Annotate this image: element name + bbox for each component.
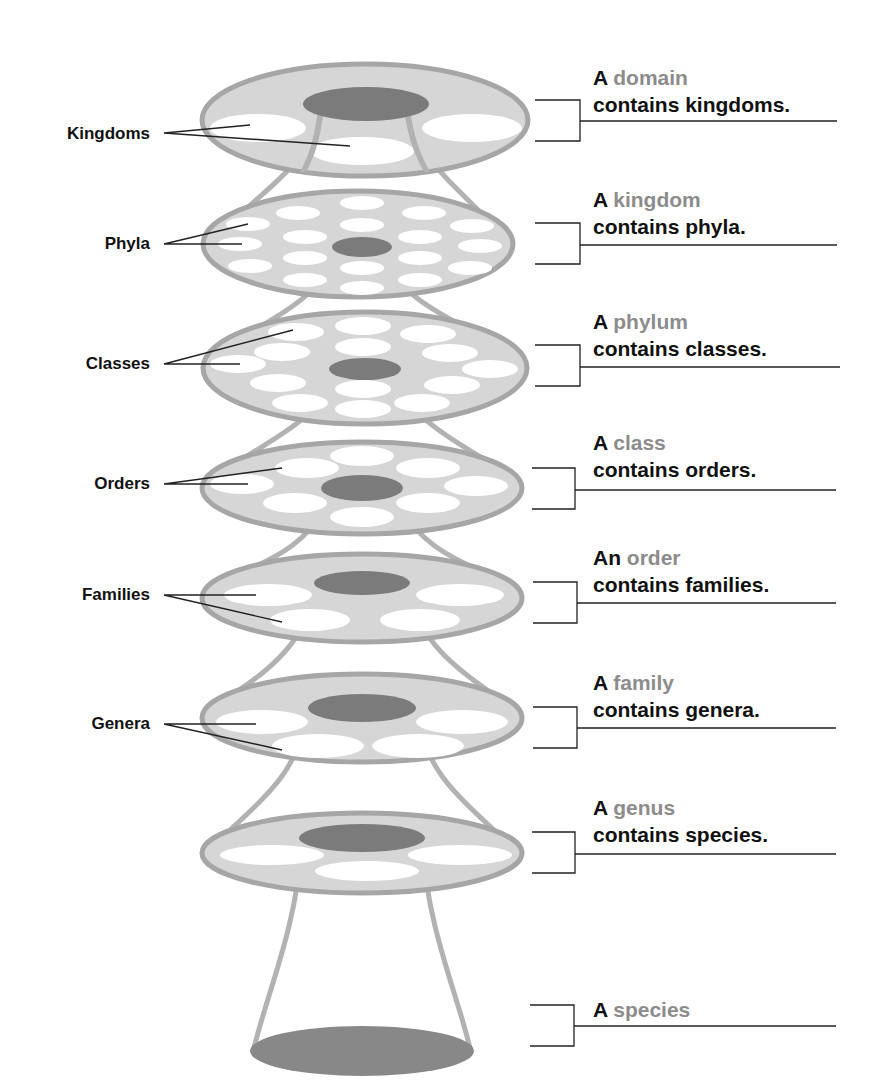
disc-class (202, 442, 522, 534)
rank-name: genus (613, 796, 675, 819)
level-kingdom: A kingdom contains phyla. (593, 186, 746, 240)
label-kingdoms: Kingdoms (0, 124, 150, 144)
domain-inner (303, 87, 429, 121)
contains-text: contains classes. (593, 335, 767, 362)
contains-text: contains orders. (593, 456, 756, 483)
label-orders: Orders (0, 474, 150, 494)
contains-text: contains genera. (593, 696, 760, 723)
article: A (593, 66, 607, 89)
rank-name: kingdom (613, 188, 701, 211)
level-family: A family contains genera. (593, 669, 760, 723)
contains-text: contains kingdoms. (593, 91, 790, 118)
rank-name: order (627, 546, 681, 569)
disc-domain (202, 64, 528, 176)
contains-text: contains families. (593, 571, 769, 598)
article: A (593, 310, 607, 333)
disc-kingdom (203, 191, 513, 297)
rank-name: species (613, 998, 690, 1021)
contains-text: contains species. (593, 821, 768, 848)
label-genera: Genera (0, 714, 150, 734)
level-genus: A genus contains species. (593, 794, 768, 848)
article: A (593, 431, 607, 454)
article: A (593, 796, 607, 819)
level-species: A species (593, 996, 690, 1023)
label-families: Families (0, 585, 150, 605)
label-classes: Classes (0, 354, 150, 374)
taxonomy-diagram: .rim { fill: #d6d6d6; stroke: #a6a6a6; s… (0, 0, 874, 1081)
article: A (593, 998, 607, 1021)
disc-order (202, 554, 522, 642)
level-order: An order contains families. (593, 544, 769, 598)
level-domain: A domain contains kingdoms. (593, 64, 790, 118)
article: A (593, 188, 607, 211)
level-class: A class contains orders. (593, 429, 756, 483)
rank-name: phylum (613, 310, 688, 333)
rank-name: family (613, 671, 674, 694)
level-phylum: A phylum contains classes. (593, 308, 767, 362)
label-phyla: Phyla (0, 234, 150, 254)
disc-genus (202, 813, 522, 893)
disc-family (202, 674, 522, 762)
article: An (593, 546, 621, 569)
article: A (593, 671, 607, 694)
contains-text: contains phyla. (593, 213, 746, 240)
species-ellipse (250, 1026, 474, 1076)
rank-name: domain (613, 66, 688, 89)
disc-phylum (203, 312, 527, 424)
rank-name: class (613, 431, 666, 454)
